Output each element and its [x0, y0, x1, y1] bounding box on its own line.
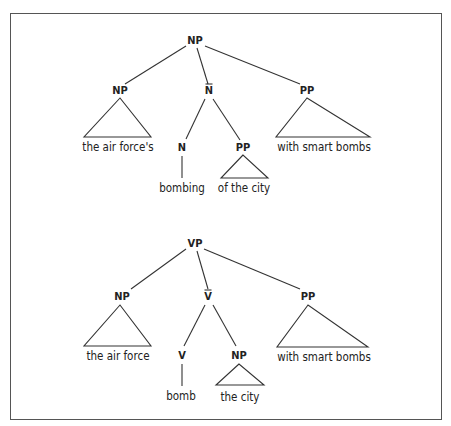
constituent-triangle: [84, 98, 151, 137]
leaf-text: the city: [220, 390, 259, 404]
root-node-label: NP: [187, 34, 203, 47]
node-label-nbar: N: [205, 84, 213, 97]
leaf-text: of the city: [218, 181, 270, 195]
constituent-triangle: [84, 305, 151, 346]
node-label-n_head: N: [178, 141, 186, 154]
tree-edge: [186, 99, 205, 139]
leaf-text: with smart bombs: [277, 140, 371, 154]
tree-edge: [204, 249, 300, 289]
syntax-tree-diagram: NPNPNPPNPPthe air force'sbombingof the c…: [0, 0, 451, 426]
tree-edge: [125, 46, 186, 84]
node-label-pp_adj: PP: [301, 290, 316, 303]
tree-edge: [213, 99, 240, 140]
leaf-text: the air force's: [82, 140, 153, 154]
node-label-pp_adj: PP: [300, 84, 315, 97]
tree-edge: [184, 305, 205, 346]
tree-edge: [197, 251, 208, 289]
node-label-np_obj: NP: [231, 349, 247, 362]
tree-edge: [213, 305, 236, 346]
tree-edge: [205, 46, 300, 84]
node-label-vbar: V: [204, 290, 212, 303]
root-node-label: VP: [188, 237, 203, 250]
node-label-np_subj: NP: [114, 290, 130, 303]
tree-edge: [131, 249, 186, 289]
node-label-pp_comp: PP: [236, 141, 251, 154]
leaf-text: bomb: [166, 389, 196, 403]
leaf-text: the air force: [86, 349, 149, 363]
constituent-triangle: [277, 305, 368, 347]
node-label-v_head: V: [178, 349, 186, 362]
leaf-text: with smart bombs: [277, 350, 371, 364]
constituent-triangle: [276, 98, 370, 137]
tree-edge: [197, 48, 208, 84]
constituent-triangle: [221, 155, 268, 178]
np-tree: NPNPNPPNPPthe air force'sbombingof the c…: [82, 34, 370, 195]
leaf-text: bombing: [159, 181, 205, 195]
constituent-triangle: [216, 364, 264, 385]
vp-tree: VPNPVPPVNPthe air forcebombthe citywith …: [84, 237, 371, 404]
node-label-np_subj: NP: [112, 84, 128, 97]
